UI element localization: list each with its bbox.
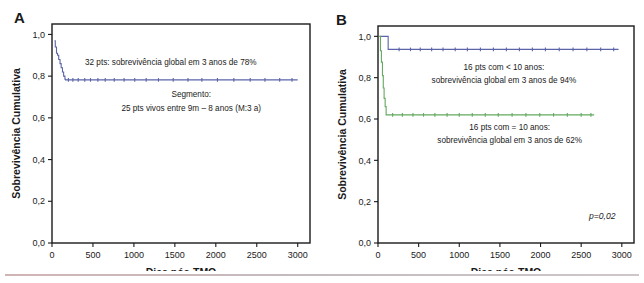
survival-curve	[380, 36, 619, 49]
figure-bottom-rule	[5, 274, 639, 276]
panel-b-plot: 0,00,20,40,60,81,00500100015002000250030…	[322, 0, 644, 271]
x-tick-label: 2000	[531, 250, 551, 260]
x-tick-label: 0	[375, 250, 380, 260]
y-tick-label: 1,0	[32, 30, 45, 40]
x-tick-label: 2500	[571, 250, 591, 260]
followup-detail: 25 pts vivos entre 9m – 8 anos (M:3 a)	[121, 104, 261, 113]
y-tick-label: 0,6	[32, 113, 45, 123]
x-tick-label: 1000	[449, 250, 469, 260]
x-tick-label: 1500	[165, 250, 185, 260]
y-tick-label: 0,2	[358, 197, 371, 207]
group-old-line2: sobrevivência global em 3 anos de 62%	[437, 136, 582, 145]
x-tick-label: 3000	[288, 250, 308, 260]
x-axis-title: Dias pós-TMO	[471, 266, 542, 271]
panel-b: B 0,00,20,40,60,81,005001000150020002500…	[322, 0, 644, 271]
group-young-line2: sobrevivência global em 3 anos de 94%	[432, 76, 577, 85]
followup-heading: Segmento:	[171, 90, 211, 99]
group-young-line1: 16 pts com < 10 anos:	[464, 63, 545, 72]
y-axis-title: Sobrevivência Cumulativa	[10, 68, 22, 199]
y-tick-label: 0,4	[358, 156, 371, 166]
x-tick-label: 2000	[206, 250, 226, 260]
group-old-line1: 16 pts com = 10 anos:	[469, 123, 550, 132]
y-tick-label: 0,0	[358, 238, 371, 248]
y-tick-label: 0,4	[32, 155, 45, 165]
x-tick-label: 500	[85, 250, 100, 260]
p-value: p=0,02	[588, 211, 616, 221]
x-tick-label: 2500	[247, 250, 267, 260]
x-axis-title: Dias pós-TMO	[146, 266, 217, 271]
y-tick-label: 0,0	[32, 238, 45, 248]
y-axis-title: Sobrevivência Cumulativa	[336, 69, 348, 200]
y-tick-label: 0,2	[32, 196, 45, 206]
panel-a: A 0,00,20,40,60,81,005001000150020002500…	[0, 0, 322, 271]
y-tick-label: 0,8	[32, 71, 45, 81]
survival-figure: A 0,00,20,40,60,81,005001000150020002500…	[0, 0, 644, 283]
x-tick-label: 1500	[490, 250, 510, 260]
x-tick-label: 0	[49, 250, 54, 260]
x-tick-label: 500	[411, 250, 426, 260]
panel-a-plot: 0,00,20,40,60,81,00500100015002000250030…	[0, 0, 322, 271]
x-tick-label: 3000	[612, 250, 632, 260]
survival-note: 32 pts: sobrevivência global em 3 anos d…	[85, 58, 257, 67]
y-tick-label: 1,0	[358, 32, 371, 42]
y-tick-label: 0,8	[358, 73, 371, 83]
x-tick-label: 1000	[124, 250, 144, 260]
y-tick-label: 0,6	[358, 114, 371, 124]
